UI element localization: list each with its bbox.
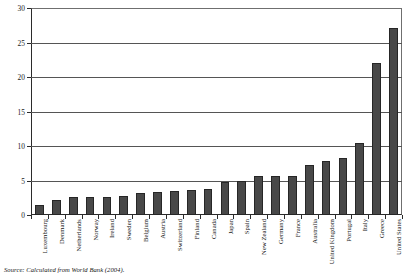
- source-note: Source: Calculated from World Bank (2004…: [4, 266, 124, 273]
- bar-finland: [187, 190, 196, 215]
- x-axis-label-ireland: Ireland: [109, 219, 116, 238]
- bar-italy: [355, 143, 364, 215]
- plot-area: 051015202530: [31, 8, 402, 215]
- x-tick-7: [166, 215, 167, 219]
- y-tick-label-20: 20: [17, 73, 25, 82]
- y-tick-label-10: 10: [17, 142, 25, 151]
- bar-france: [288, 176, 297, 215]
- bar-united-kingdom: [322, 161, 331, 215]
- bar-austria: [153, 192, 162, 215]
- x-tick-origin: [31, 215, 32, 219]
- bar-greece: [372, 63, 381, 215]
- x-tick-5: [132, 215, 133, 219]
- x-axis-labels: LuxembourgDenmarkNetherlandsNorwayIrelan…: [31, 219, 402, 267]
- x-tick-19: [368, 215, 369, 219]
- x-axis-label-norway: Norway: [93, 219, 100, 241]
- bar-sweden: [119, 196, 128, 215]
- x-tick-17: [335, 215, 336, 219]
- x-axis-label-italy: Italy: [362, 219, 369, 231]
- bar-belgium: [136, 193, 145, 215]
- x-axis-label-belgium: Belgium: [143, 219, 150, 242]
- x-tick-10: [217, 215, 218, 219]
- x-tick-11: [233, 215, 234, 219]
- y-tick-label-15: 15: [17, 107, 25, 116]
- bar-luxembourg: [35, 205, 44, 215]
- bar-series: [31, 8, 402, 215]
- y-tick-label-5: 5: [21, 176, 25, 185]
- x-tick-6: [149, 215, 150, 219]
- x-tick-14: [284, 215, 285, 219]
- x-axis-label-luxembourg: Luxembourg: [42, 219, 49, 253]
- x-axis-label-germany: Germany: [278, 219, 285, 244]
- x-axis-label-japan: Japan: [228, 219, 235, 234]
- x-axis-label-switzerland: Switzerland: [177, 219, 184, 251]
- x-axis-label-portugal: Portugal: [346, 219, 353, 242]
- y-tick-label-30: 30: [17, 4, 25, 13]
- x-tick-4: [115, 215, 116, 219]
- bar-norway: [86, 197, 95, 215]
- x-tick-21: [402, 215, 403, 219]
- bar-switzerland: [170, 191, 179, 215]
- x-axis-label-spain: Spain: [244, 219, 251, 234]
- bar-canada: [204, 189, 213, 215]
- x-axis-label-canada: Canada: [211, 219, 218, 239]
- bar-united-states: [389, 28, 398, 215]
- bar-australia: [305, 165, 314, 215]
- x-tick-13: [267, 215, 268, 219]
- x-axis-label-france: France: [295, 219, 302, 237]
- x-tick-8: [183, 215, 184, 219]
- x-axis-label-united-states: United States: [396, 219, 403, 255]
- x-tick-15: [301, 215, 302, 219]
- x-axis-label-austria: Austria: [160, 219, 167, 239]
- x-tick-20: [385, 215, 386, 219]
- bar-portugal: [339, 158, 348, 215]
- bar-chart-figure: 051015202530 LuxembourgDenmarkNetherland…: [0, 0, 407, 279]
- bar-denmark: [52, 200, 61, 215]
- x-axis-label-greece: Greece: [379, 219, 386, 238]
- x-axis-label-new-zealand: New Zealand: [261, 219, 268, 255]
- bar-japan: [221, 182, 230, 215]
- x-axis-label-denmark: Denmark: [59, 219, 66, 244]
- bar-spain: [237, 181, 246, 216]
- x-axis-label-netherlands: Netherlands: [76, 219, 83, 251]
- x-axis-label-united-kingdom: United Kingdom: [329, 219, 336, 264]
- y-tick-label-0: 0: [21, 211, 25, 220]
- bar-ireland: [103, 197, 112, 215]
- bar-netherlands: [69, 197, 78, 215]
- bar-germany: [271, 176, 280, 215]
- x-axis-label-australia: Australia: [312, 219, 319, 244]
- x-axis-label-finland: Finland: [194, 219, 201, 240]
- x-tick-0: [48, 215, 49, 219]
- y-tick-label-25: 25: [17, 38, 25, 47]
- bar-new-zealand: [254, 176, 263, 215]
- x-tick-12: [250, 215, 251, 219]
- x-axis-label-sweden: Sweden: [126, 219, 133, 240]
- x-tick-2: [82, 215, 83, 219]
